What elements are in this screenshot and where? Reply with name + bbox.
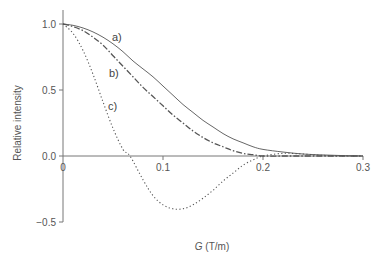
- y-tick-label: 1.0: [42, 19, 56, 30]
- y-tick-label: 0.5: [42, 85, 56, 96]
- y-tick-label: −0.5: [36, 217, 56, 228]
- curve-label-c: c): [108, 100, 117, 112]
- curves: [63, 24, 363, 209]
- y-ticks: 1.00.50.0−0.5: [36, 19, 63, 228]
- y-tick-label: 0.0: [42, 151, 56, 162]
- x-ticks: 0.10.20.3: [156, 156, 370, 173]
- axes: [63, 10, 363, 222]
- relative-intensity-chart: 1.00.50.0−0.5 0.10.20.3 0 a) b) c) Relat…: [0, 0, 390, 257]
- x-axis-title: G (T/m): [195, 241, 229, 252]
- x-tick-label: 0.2: [256, 162, 270, 173]
- x-tick-label: 0.3: [356, 162, 370, 173]
- curve-label-b: b): [109, 67, 119, 79]
- curve-a: [63, 24, 363, 156]
- curve-b: [63, 24, 363, 156]
- x-axis-title-unit: (T/m): [203, 241, 230, 252]
- curve-label-a: a): [112, 31, 122, 43]
- y-axis-title: Relative intensity: [12, 85, 23, 161]
- x-tick-label: 0.1: [156, 162, 170, 173]
- origin-label: 0: [60, 162, 66, 173]
- curve-c: [63, 24, 363, 209]
